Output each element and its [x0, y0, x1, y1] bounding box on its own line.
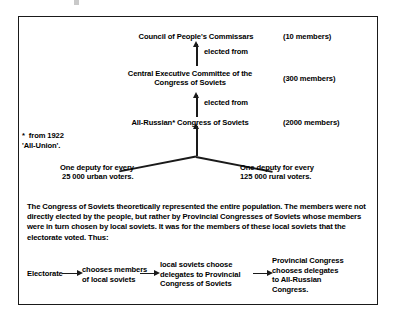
flow-step-chooses-local-soviets: chooses members of local soviets	[82, 265, 147, 284]
deputy-ratio-urban: One deputy for every 25 000 urban voters…	[60, 163, 134, 182]
footnote-all-union: * from 1922 'All-Union'.	[22, 131, 64, 151]
explanatory-paragraph: The Congress of Soviets theoretically re…	[27, 202, 369, 243]
flow-step-provincial-congress: Provincial Congress chooses delegates to…	[272, 256, 344, 294]
elected-from-label-1: elected from	[204, 47, 248, 56]
diagram-page: Council of People's Commissars (10 membe…	[0, 0, 394, 321]
connector-line-cec	[196, 95, 198, 117]
all-russian-congress-label: All-Russian* Congress of Soviets	[96, 118, 284, 127]
scan-artifact	[74, 0, 79, 5]
connector-line-congress-spine	[196, 126, 198, 156]
elected-from-label-2: elected from	[204, 98, 248, 107]
council-members-count: (10 members)	[283, 32, 331, 41]
council-of-peoples-commissars-label: Council of People's Commissars	[108, 32, 284, 41]
flow-step-electorate: Electorate	[27, 269, 63, 279]
central-executive-committee-label: Central Executive Committee of the Congr…	[96, 69, 284, 88]
cec-members-count: (300 members)	[283, 74, 335, 83]
arrowhead-up-cec	[193, 92, 199, 98]
deputy-ratio-rural: One deputy for every 125 000 rural voter…	[240, 163, 314, 182]
arrowhead-up-council	[193, 41, 199, 47]
connector-line-council	[196, 44, 198, 66]
congress-members-count: (2000 members)	[283, 118, 339, 127]
flow-step-local-soviets-choose: local soviets choose delegates to Provin…	[160, 260, 240, 289]
